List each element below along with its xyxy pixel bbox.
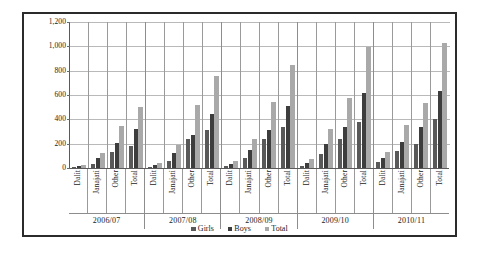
bar-girls[interactable] xyxy=(357,122,361,168)
y-axis-tick-label: 400 xyxy=(28,115,66,123)
category-bar-cluster xyxy=(146,22,164,168)
y-axis-tick-label: 1,000 xyxy=(28,42,66,50)
bar-boys[interactable] xyxy=(115,143,119,168)
y-axis-tick-labels: 1,2001,0008006004002000 xyxy=(28,22,66,168)
bar-girls[interactable] xyxy=(319,154,323,168)
category-tick-label: Other xyxy=(341,170,349,188)
bar-girls[interactable] xyxy=(338,139,342,168)
legend-item-boys[interactable]: Boys xyxy=(228,225,251,233)
bar-girls[interactable] xyxy=(243,158,247,168)
bar-girls[interactable] xyxy=(110,152,114,168)
bar-total[interactable] xyxy=(214,76,218,168)
y-axis-tick-label: 800 xyxy=(28,67,66,75)
legend-item-total[interactable]: Total xyxy=(265,225,288,233)
chart-figure: 1,2001,0008006004002000 DalitJanajatiOth… xyxy=(22,12,457,237)
bar-boys[interactable] xyxy=(229,164,233,168)
bar-total[interactable] xyxy=(157,163,161,168)
year-group xyxy=(221,22,297,168)
category-tick-label: Total xyxy=(360,170,368,186)
bar-total[interactable] xyxy=(138,107,142,168)
bar-total[interactable] xyxy=(423,103,427,168)
bar-boys[interactable] xyxy=(286,106,290,168)
bar-total[interactable] xyxy=(195,105,199,168)
category-tick-label: Dalit xyxy=(303,170,311,186)
bar-boys[interactable] xyxy=(324,144,328,168)
bar-girls[interactable] xyxy=(300,166,304,168)
category-tick-label: Dalit xyxy=(150,170,158,186)
bar-total[interactable] xyxy=(233,161,237,168)
bar-girls[interactable] xyxy=(433,119,437,168)
category-tick: Dalit xyxy=(69,169,87,213)
category-tick-label: Janajati xyxy=(398,170,406,194)
category-bar-cluster xyxy=(107,22,126,168)
chart-legend: GirlsBoysTotal xyxy=(24,222,455,236)
category-tick: Other xyxy=(335,169,354,213)
bar-girls[interactable] xyxy=(72,167,76,168)
bar-girls[interactable] xyxy=(167,161,171,168)
bar-total[interactable] xyxy=(176,145,180,168)
bar-boys[interactable] xyxy=(419,127,423,168)
category-bar-cluster xyxy=(392,22,411,168)
bar-total[interactable] xyxy=(347,98,351,168)
bar-total[interactable] xyxy=(385,152,389,168)
bar-total[interactable] xyxy=(100,153,104,168)
bar-girls[interactable] xyxy=(186,139,190,168)
bar-total[interactable] xyxy=(81,165,85,168)
bar-boys[interactable] xyxy=(77,166,81,168)
category-tick: Dalit xyxy=(374,169,392,213)
bar-girls[interactable] xyxy=(395,151,399,168)
bar-total[interactable] xyxy=(119,126,123,168)
bar-boys[interactable] xyxy=(343,127,347,168)
category-bar-cluster xyxy=(70,22,88,168)
category-bar-cluster xyxy=(374,22,392,168)
category-bar-cluster xyxy=(240,22,259,168)
y-axis-tick-label: 600 xyxy=(28,91,66,99)
bar-girls[interactable] xyxy=(148,167,152,168)
category-tick: Other xyxy=(259,169,278,213)
bar-girls[interactable] xyxy=(91,164,95,168)
bar-boys[interactable] xyxy=(305,163,309,168)
bar-girls[interactable] xyxy=(281,127,285,168)
bar-boys[interactable] xyxy=(172,153,176,168)
year-label-group: DalitJanajatiOtherTotal xyxy=(297,169,373,213)
bar-boys[interactable] xyxy=(381,158,385,168)
bar-total[interactable] xyxy=(366,47,370,168)
y-axis-tick-label: 0 xyxy=(28,164,66,172)
legend-label: Girls xyxy=(198,225,214,233)
bar-girls[interactable] xyxy=(205,130,209,168)
bar-girls[interactable] xyxy=(376,162,380,168)
category-bar-cluster xyxy=(316,22,335,168)
plot-area xyxy=(69,22,449,169)
category-tick: Other xyxy=(182,169,201,213)
bar-girls[interactable] xyxy=(129,146,133,169)
bar-total[interactable] xyxy=(290,65,294,168)
year-label-group: DalitJanajatiOtherTotal xyxy=(69,169,144,213)
category-tick: Dalit xyxy=(145,169,163,213)
category-tick: Dalit xyxy=(298,169,316,213)
bar-total[interactable] xyxy=(442,43,446,168)
bar-total[interactable] xyxy=(252,139,256,168)
bar-total[interactable] xyxy=(309,159,313,168)
bar-boys[interactable] xyxy=(438,91,442,168)
category-tick-label: Janajati xyxy=(322,170,330,194)
bar-boys[interactable] xyxy=(210,114,214,168)
bar-boys[interactable] xyxy=(96,158,100,168)
category-bar-cluster xyxy=(222,22,240,168)
category-tick: Total xyxy=(430,169,449,213)
legend-item-girls[interactable]: Girls xyxy=(191,225,214,233)
bar-boys[interactable] xyxy=(362,93,366,168)
bar-girls[interactable] xyxy=(262,139,266,168)
category-bar-cluster xyxy=(278,22,297,168)
bar-total[interactable] xyxy=(404,125,408,168)
year-group xyxy=(373,22,449,168)
bar-boys[interactable] xyxy=(267,130,271,168)
bar-boys[interactable] xyxy=(153,165,157,168)
bar-total[interactable] xyxy=(271,102,275,168)
bar-boys[interactable] xyxy=(191,135,195,168)
bar-girls[interactable] xyxy=(224,166,228,168)
bar-girls[interactable] xyxy=(414,144,418,168)
bar-boys[interactable] xyxy=(248,150,252,168)
bar-boys[interactable] xyxy=(134,129,138,168)
bar-total[interactable] xyxy=(328,129,332,168)
bar-boys[interactable] xyxy=(400,142,404,168)
